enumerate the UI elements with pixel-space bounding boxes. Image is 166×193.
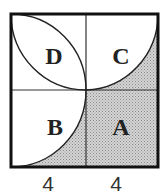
dimension-label-left: 4	[42, 172, 54, 193]
region-label-a: A	[112, 114, 130, 140]
region-label-b: B	[47, 114, 63, 140]
dimension-label-right: 4	[110, 172, 122, 193]
region-label-d: D	[45, 43, 62, 69]
geometry-diagram: D C B A 4 4	[0, 0, 166, 193]
region-label-c: C	[112, 43, 129, 69]
